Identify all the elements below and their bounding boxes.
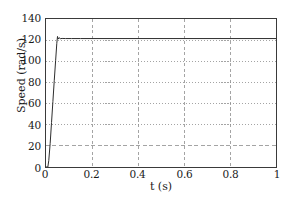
x-tick-label-0.6: 0.6 — [171, 169, 198, 180]
y-tick-label-60: 60 — [28, 98, 41, 108]
x-tick-label-0.4: 0.4 — [124, 169, 151, 180]
x-axis-title: t (s) — [45, 180, 277, 193]
speed-series-line — [46, 19, 276, 167]
y-tick-label-80: 80 — [28, 77, 41, 87]
x-tick-label-1: 1 — [267, 169, 287, 180]
x-tick-label-0.2: 0.2 — [78, 169, 105, 180]
y-tick-label-40: 40 — [28, 120, 41, 130]
plot-area — [45, 18, 277, 168]
speed-vs-time-chart: 140 120 100 80 60 40 20 0 0 0.2 0.4 0.6 … — [0, 0, 290, 197]
x-tick-label-0: 0 — [35, 169, 55, 180]
x-tick-label-0.8: 0.8 — [217, 169, 244, 180]
y-tick-label-20: 20 — [28, 141, 41, 151]
y-axis-title: Speed (rad/s) — [15, 16, 28, 136]
